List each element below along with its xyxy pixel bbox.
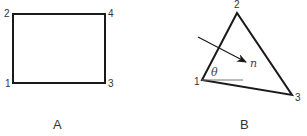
panel-a-caption: A xyxy=(53,117,62,132)
node-label-3: 3 xyxy=(295,92,301,103)
node-label-1: 1 xyxy=(194,76,200,87)
node-label-4: 4 xyxy=(108,8,114,19)
panel-b-caption: B xyxy=(240,117,249,132)
quad-element xyxy=(13,14,105,83)
angle-label: θ xyxy=(211,66,218,79)
panel-b: n θ 2 1 3 B xyxy=(194,0,301,132)
normal-label: n xyxy=(250,57,257,70)
panel-a: 2 4 1 3 A xyxy=(4,8,114,132)
node-label-2: 2 xyxy=(234,0,240,10)
node-label-2: 2 xyxy=(4,8,10,19)
triangle-element xyxy=(202,13,292,95)
node-label-3: 3 xyxy=(108,78,114,89)
node-label-1: 1 xyxy=(5,78,11,89)
